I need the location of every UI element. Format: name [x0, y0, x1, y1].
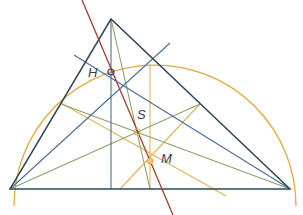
- label-orthocenter: H: [88, 65, 97, 80]
- label-circumcenter: M: [161, 151, 172, 166]
- circumcircle-arc: [14, 65, 296, 206]
- geometry-figure: [0, 0, 303, 215]
- label-centroid: S: [137, 107, 146, 122]
- euler-line-diagram: H S M: [0, 0, 303, 215]
- circumcenter-point: [147, 158, 153, 164]
